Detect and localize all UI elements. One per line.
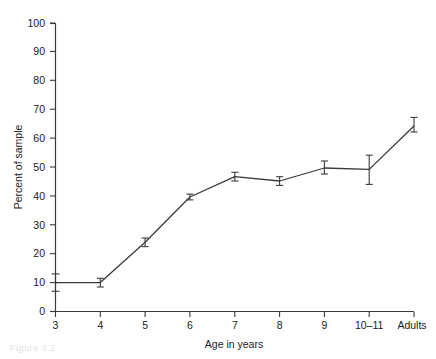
figure-root: 0 10 20 30 40 50 60 70 80 90 100 3 — [0, 0, 436, 359]
y-tick-label: 20 — [33, 247, 45, 259]
x-tick-label: 4 — [97, 319, 103, 331]
axes — [50, 23, 414, 312]
x-axis-tick-labels: 3 4 5 6 7 8 9 10–11 Adults — [53, 319, 427, 331]
y-tick-label: 100 — [27, 17, 45, 29]
x-tick-label: 10–11 — [355, 319, 384, 331]
y-tick-label: 0 — [39, 305, 45, 317]
y-tick-label: 70 — [33, 103, 45, 115]
x-tick-label: 7 — [232, 319, 238, 331]
x-axis-ticks — [56, 312, 415, 317]
y-axis-ticks — [50, 23, 55, 312]
error-bars — [52, 117, 418, 291]
y-tick-label: 50 — [33, 161, 45, 173]
figure-caption-fragment: Figure 3.2 — [10, 343, 56, 353]
y-tick-label: 10 — [33, 276, 45, 288]
y-tick-label: 60 — [33, 132, 45, 144]
x-axis-title: Age in years — [205, 338, 263, 350]
x-tick-label: 6 — [187, 319, 193, 331]
x-tick-label: 9 — [321, 319, 327, 331]
x-tick-label: 8 — [277, 319, 283, 331]
x-tick-label: Adults — [397, 319, 426, 331]
y-tick-label: 90 — [33, 45, 45, 57]
error-bar-adults — [411, 117, 418, 132]
y-axis-title: Percent of sample — [12, 125, 24, 210]
y-tick-label: 80 — [33, 74, 45, 86]
x-tick-label: 5 — [142, 319, 148, 331]
y-tick-label: 40 — [33, 190, 45, 202]
y-axis-tick-labels: 0 10 20 30 40 50 60 70 80 90 100 — [27, 17, 45, 318]
line-chart: 0 10 20 30 40 50 60 70 80 90 100 3 — [0, 0, 436, 359]
data-line-series — [56, 126, 415, 283]
x-tick-label: 3 — [53, 319, 59, 331]
y-tick-label: 30 — [33, 219, 45, 231]
